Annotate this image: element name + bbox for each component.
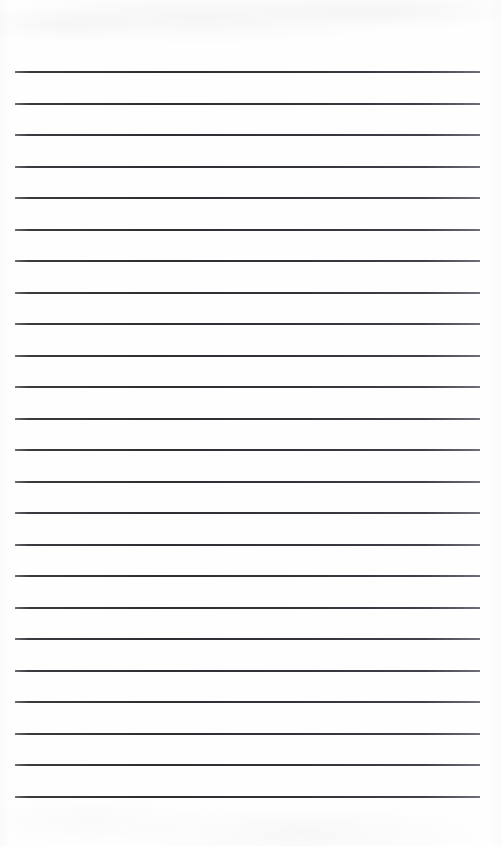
ruled-line <box>15 355 480 357</box>
ruled-lines-container <box>0 0 501 846</box>
ruled-line <box>15 323 480 325</box>
ruled-line <box>15 418 480 420</box>
ruled-line <box>15 197 480 199</box>
ruled-line <box>15 292 480 294</box>
ruled-line <box>15 103 480 105</box>
ruled-line <box>15 733 480 735</box>
ruled-line <box>15 134 480 136</box>
ruled-line <box>15 71 480 73</box>
ruled-line <box>15 544 480 546</box>
ruled-line <box>15 449 480 451</box>
ruled-line <box>15 764 480 766</box>
ruled-line <box>15 260 480 262</box>
ruled-line <box>15 229 480 231</box>
ruled-line <box>15 638 480 640</box>
ruled-line <box>15 796 480 798</box>
ruled-line <box>15 670 480 672</box>
lined-paper-page <box>0 0 501 846</box>
ruled-line <box>15 512 480 514</box>
ruled-line <box>15 386 480 388</box>
ruled-line <box>15 607 480 609</box>
ruled-line <box>15 481 480 483</box>
ruled-line <box>15 166 480 168</box>
ruled-line <box>15 701 480 703</box>
ruled-line <box>15 575 480 577</box>
